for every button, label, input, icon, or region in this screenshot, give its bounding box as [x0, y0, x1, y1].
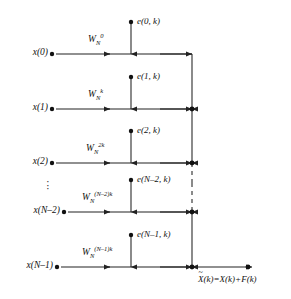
twiddle-base-wN1: W	[82, 247, 90, 257]
input-label-xN2: x(N–2)	[0, 206, 60, 216]
input-dot-x0	[50, 52, 54, 56]
error-label-e2: e(2, k)	[137, 126, 160, 135]
vertical-ellipsis: ···	[46, 180, 50, 191]
junction-dot-row5	[190, 265, 195, 270]
error-label-eN1: e(N–1, k)	[137, 230, 171, 239]
tap-dot-eN2	[129, 178, 133, 182]
twiddle-base-w0: W	[88, 34, 96, 44]
junction-dot-row3	[190, 161, 195, 166]
error-label-e0: e(0, k)	[137, 17, 160, 26]
output-dot	[246, 265, 251, 270]
twiddle-sub-w1: N	[96, 94, 100, 101]
twiddle-sup-wN2: (N–2)k	[94, 190, 112, 197]
twiddle-label-w0: WN0	[88, 33, 104, 47]
output-lhs: (k)	[204, 274, 214, 284]
output-equation: ~X(k)=X(k)+F(k)	[198, 275, 257, 284]
twiddle-sub-wN1: N	[90, 252, 94, 259]
tap-dot-e1	[129, 75, 133, 79]
twiddle-sub-wN2: N	[90, 197, 94, 204]
error-label-e1: e(1, k)	[137, 72, 160, 81]
input-label-x2: x(2)	[0, 157, 48, 167]
signal-row-x0	[56, 24, 192, 54]
input-label-x0: x(0)	[0, 48, 48, 58]
error-label-eN2: e(N–2, k)	[137, 175, 171, 184]
tap-dot-eN1	[129, 233, 133, 237]
output-accented-symbol: ~X	[198, 275, 204, 284]
twiddle-base-w1: W	[88, 89, 96, 99]
junction-dot-row4	[190, 210, 195, 215]
signal-flow-graph	[0, 0, 291, 299]
signal-row-x1	[56, 79, 192, 109]
twiddle-label-wN1: WN(N–1)k	[82, 246, 112, 260]
input-label-xN1: x(N–1)	[0, 261, 53, 271]
input-dot-x1	[50, 107, 54, 111]
input-dot-xN1	[55, 265, 59, 269]
tap-dot-e0	[129, 20, 133, 24]
input-dot-x2	[50, 161, 54, 165]
twiddle-base-w2: W	[86, 143, 94, 153]
twiddle-label-w1: WNk	[88, 88, 103, 102]
tap-dot-e2	[129, 129, 133, 133]
twiddle-sup-wN1: (N–1)k	[94, 245, 112, 252]
twiddle-sup-w0: 0	[100, 32, 103, 39]
twiddle-sub-w2: N	[94, 148, 98, 155]
tilde-accent: ~	[198, 269, 204, 277]
twiddle-label-wN2: WN(N–2)k	[82, 191, 112, 205]
figure-canvas: x(0) x(1) x(2) x(N–2) x(N–1) ··· WN0 WNk…	[0, 0, 291, 299]
input-dot-xN2	[62, 210, 66, 214]
twiddle-sup-w1: k	[100, 87, 103, 94]
input-label-x1: x(1)	[0, 103, 48, 113]
twiddle-label-w2: WN2k	[86, 142, 104, 156]
junction-dot-row2	[190, 107, 195, 112]
output-rhs: =X(k)+F(k)	[214, 274, 257, 284]
twiddle-sup-w2: 2k	[98, 141, 104, 148]
signal-row-xN1	[61, 237, 192, 267]
twiddle-sub-w0: N	[96, 39, 100, 46]
twiddle-base-wN2: W	[82, 192, 90, 202]
signal-row-x2	[56, 133, 192, 163]
